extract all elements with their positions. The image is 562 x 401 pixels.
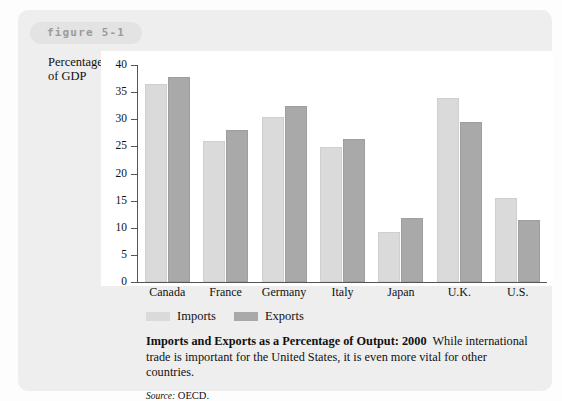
x-label-germany: Germany	[255, 285, 313, 300]
y-tick-35	[131, 92, 138, 93]
bar-imports-canada	[145, 84, 167, 282]
source-label: Source:	[146, 391, 175, 401]
legend-label-exports: Exports	[265, 309, 304, 324]
bar-group-canada	[145, 65, 190, 282]
bar-group-uk	[437, 65, 482, 282]
figure-root: figure 5-1 Percentage of GDP 40353025201…	[0, 0, 562, 401]
bar-imports-germany	[262, 117, 284, 282]
legend-label-imports: Imports	[177, 309, 216, 324]
figure-number-label: figure 5-1	[30, 22, 142, 44]
bars-layer	[138, 65, 547, 282]
chart-legend: ImportsExports	[146, 309, 322, 323]
y-tick-label-30: 30	[103, 112, 127, 124]
bar-group-japan	[378, 65, 423, 282]
y-tick-label-10: 10	[103, 221, 127, 233]
source-line: Source: OECD.	[146, 388, 538, 401]
bar-group-germany	[262, 65, 307, 282]
y-tick-label-25: 25	[103, 139, 127, 151]
bar-exports-us	[518, 220, 540, 282]
y-tick-label-20: 20	[103, 167, 127, 179]
bar-imports-france	[203, 141, 225, 282]
y-tick-label-40: 40	[103, 58, 127, 70]
bar-exports-uk	[460, 122, 482, 282]
y-tick-0	[131, 282, 138, 283]
bar-group-italy	[320, 65, 365, 282]
legend-item-exports: Exports	[234, 309, 304, 324]
y-tick-5	[131, 255, 138, 256]
legend-swatch-exports	[234, 312, 258, 321]
caption-title: Imports and Exports as a Percentage of O…	[146, 334, 427, 348]
figure-caption: Imports and Exports as a Percentage of O…	[146, 334, 538, 401]
bar-exports-germany	[285, 106, 307, 282]
y-tick-label-5: 5	[103, 248, 127, 260]
figure-number-badge: figure 5-1	[30, 22, 142, 44]
y-tick-label-0: 0	[103, 275, 127, 287]
y-tick-label-15: 15	[103, 194, 127, 206]
bar-exports-france	[226, 130, 248, 282]
source-value: OECD.	[178, 390, 209, 401]
figure-panel: figure 5-1 Percentage of GDP 40353025201…	[18, 10, 552, 391]
x-label-canada: Canada	[138, 285, 196, 300]
bar-imports-italy	[320, 147, 342, 282]
x-axis-category-labels: CanadaFranceGermanyItalyJapanU.K.U.S.	[138, 285, 547, 303]
bar-imports-us	[495, 198, 517, 282]
x-label-japan: Japan	[372, 285, 430, 300]
y-tick-20	[131, 174, 138, 175]
x-label-uk: U.K.	[430, 285, 488, 300]
bar-imports-uk	[437, 98, 459, 282]
chart-axes: 4035302520151050 CanadaFranceGermanyItal…	[101, 51, 553, 286]
bar-exports-italy	[343, 139, 365, 282]
bar-exports-canada	[168, 77, 190, 282]
legend-item-imports: Imports	[146, 309, 216, 324]
y-tick-label-35: 35	[103, 85, 127, 97]
y-tick-10	[131, 228, 138, 229]
y-tick-15	[131, 201, 138, 202]
bar-group-france	[203, 65, 248, 282]
y-tick-40	[131, 65, 138, 66]
x-label-france: France	[196, 285, 254, 300]
legend-swatch-imports	[146, 312, 170, 321]
x-label-italy: Italy	[313, 285, 371, 300]
y-tick-30	[131, 119, 138, 120]
x-label-us: U.S.	[489, 285, 547, 300]
y-tick-25	[131, 146, 138, 147]
bar-exports-japan	[401, 218, 423, 282]
bar-imports-japan	[378, 232, 400, 282]
x-axis-line	[137, 282, 547, 283]
bar-group-us	[495, 65, 540, 282]
